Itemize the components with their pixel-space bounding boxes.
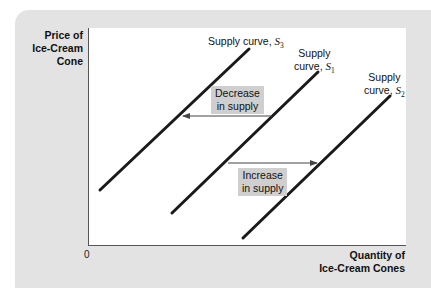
y-axis-label-line: Price of [32,29,83,42]
decrease-in-supply-label: Decrease in supply [211,86,264,114]
supply-curve-s2 [243,96,390,238]
annotation-line: Decrease [215,87,260,100]
curve-label-text: Supply [294,47,335,60]
curve-label-text: curve, [294,60,323,72]
annotation-line: Increase [242,169,283,182]
annotation-line: in supply [215,100,260,113]
y-axis-label-line: Cone [32,55,83,68]
origin-label: 0 [84,249,90,260]
annotation-line: in supply [242,182,283,195]
curve-label-s1: Supply curve, S1 [294,47,335,77]
x-axis-label-line: Ice-Cream Cones [319,262,405,275]
curve-label-s2: Supply curve, S2 [364,71,405,101]
increase-in-supply-label: Increase in supply [238,168,287,196]
x-axis-label-line: Quantity of [319,249,405,262]
y-axis-label: Price of Ice-Cream Cone [32,29,83,68]
curve-label-text: curve, [364,84,393,96]
x-axis-label: Quantity of Ice-Cream Cones [319,249,405,275]
curve-label-text: Supply [364,71,405,84]
curve-label-s3: Supply curve, S3 [208,35,284,52]
y-axis-label-line: Ice-Cream [32,42,83,55]
curve-symbol: S2 [396,84,405,96]
supply-curve-s3 [100,49,249,190]
curve-symbol: S3 [275,35,284,47]
curve-label-text: Supply curve, [208,35,272,47]
curve-symbol: S1 [326,60,335,72]
